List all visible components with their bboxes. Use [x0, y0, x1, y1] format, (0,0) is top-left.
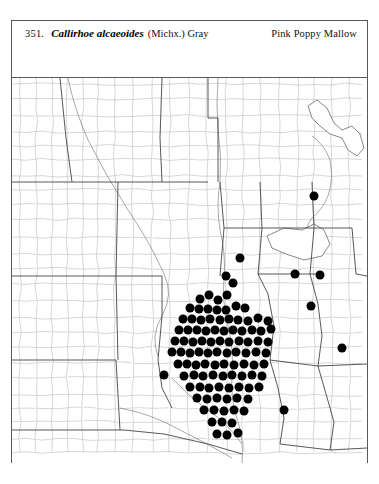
occurrence-dot [211, 361, 220, 370]
occurrence-dot [200, 406, 209, 415]
distribution-map [12, 78, 367, 463]
occurrence-dot [225, 338, 234, 347]
occurrence-dot [267, 325, 276, 334]
occurrence-dot [180, 337, 189, 346]
scientific-name: Callirhoe alcaeoides [51, 27, 144, 39]
occurrence-dot [245, 384, 254, 393]
occurrence-dot [280, 406, 289, 415]
county-grid-layer [12, 78, 362, 454]
occurrence-dot [244, 338, 253, 347]
occurrence-dot [204, 305, 213, 314]
occurrence-dot [206, 315, 215, 324]
occurrence-dot [229, 326, 238, 335]
occurrence-dot [183, 360, 192, 369]
occurrence-dot [229, 279, 238, 288]
occurrence-dot [196, 383, 205, 392]
occurrence-dot [230, 361, 239, 370]
occurrence-dot [186, 349, 195, 358]
map-svg [12, 78, 367, 463]
occurrence-dot [258, 372, 267, 381]
caption-box: 351. Callirhoe alcaeoides (Michx.) Gray … [12, 21, 367, 78]
occurrence-dot [190, 371, 199, 380]
occurrence-dot [238, 372, 247, 381]
occurrence-dot [204, 349, 213, 358]
occurrence-dot [188, 315, 197, 324]
occurrence-dot [218, 418, 227, 427]
taxon-authority: (Michx.) Gray [148, 28, 209, 39]
common-name: Pink Poppy Mallow [271, 28, 357, 39]
occurrence-dot [233, 394, 242, 403]
occurrence-dot [196, 295, 205, 304]
occurrence-dot [184, 326, 193, 335]
occurrence-dot [316, 271, 325, 280]
occurrence-dot [240, 360, 249, 369]
caption-row: 351. Callirhoe alcaeoides (Michx.) Gray … [12, 27, 367, 47]
occurrence-dot [248, 371, 257, 380]
occurrence-dot [250, 361, 259, 370]
occurrence-dot [252, 348, 261, 357]
occurrence-dot [254, 337, 263, 346]
occurrence-dot [186, 304, 195, 313]
occurrence-dot [197, 316, 206, 325]
occurrence-dot [225, 384, 234, 393]
occurrence-dot [248, 326, 257, 335]
occurrence-dot [242, 349, 251, 358]
occurrence-dot [213, 306, 222, 315]
occurrence-dot [189, 338, 198, 347]
occurrence-dot [213, 430, 222, 439]
occurrence-dot [223, 395, 232, 404]
occurrence-dot [199, 372, 208, 381]
occurrence-dot [235, 383, 244, 392]
plate-number: 351. [25, 28, 44, 39]
occurrence-dot [192, 361, 201, 370]
occurrence-dot [213, 348, 222, 357]
occurrence-dot [211, 326, 220, 335]
plate-frame: 351. Callirhoe alcaeoides (Michx.) Gray … [11, 20, 368, 463]
occurrence-dot [193, 394, 202, 403]
occurrence-dot [223, 291, 232, 300]
occurrence-dot [210, 406, 219, 415]
occurrence-dot [228, 371, 237, 380]
occurrence-dot [168, 348, 177, 357]
occurrence-dot [236, 254, 245, 263]
occurrence-dot [240, 407, 249, 416]
occurrence-dot [257, 327, 266, 336]
occurrence-dot [198, 337, 207, 346]
occurrence-dot [186, 383, 195, 392]
occurrence-dot [264, 317, 273, 326]
occurrence-dot [234, 429, 243, 438]
occurrence-dot [222, 272, 231, 281]
occurrence-dot [223, 431, 232, 440]
occurrence-dot [171, 337, 180, 346]
occurrence-dot [160, 371, 169, 380]
occurrence-dot [220, 407, 229, 416]
occurrence-dot [264, 338, 273, 347]
occurrence-dot [238, 327, 247, 336]
occurrence-dot [244, 317, 253, 326]
occurrence-dot [262, 349, 271, 358]
occurrence-dot [175, 326, 184, 335]
occurrence-dot [179, 315, 188, 324]
occurrence-dot [177, 348, 186, 357]
occurrence-dot [193, 326, 202, 335]
occurrence-dot [201, 360, 210, 369]
occurrence-dot [241, 304, 250, 313]
occurrence-dot [228, 419, 237, 428]
occurrence-dot [174, 360, 183, 369]
occurrence-dot [235, 337, 244, 346]
occurrence-dot [219, 372, 228, 381]
occurrence-dot [254, 314, 263, 323]
occurrence-dot [195, 348, 204, 357]
occurrence-dot [207, 338, 216, 347]
occurrence-dot [255, 383, 264, 392]
occurrence-dot [234, 316, 243, 325]
occurrence-dot [214, 296, 223, 305]
occurrence-dot [220, 360, 229, 369]
occurrence-dot [195, 305, 204, 314]
occurrence-dot [232, 348, 241, 357]
occurrence-dot [291, 270, 300, 279]
occurrence-dot [208, 418, 217, 427]
occurrence-dot [205, 384, 214, 393]
occurrence-dot [202, 327, 211, 336]
occurrence-dot [244, 395, 253, 404]
